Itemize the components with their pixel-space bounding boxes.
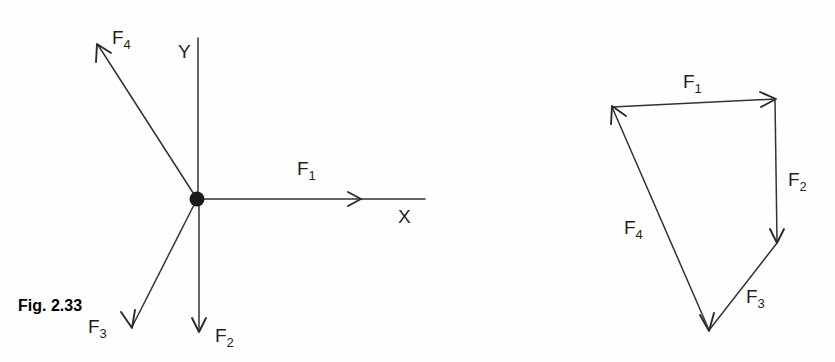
x-axis-label: X: [398, 206, 411, 227]
space-f2-label-base: F: [215, 325, 227, 346]
space-f2-label-sub: 2: [227, 335, 234, 350]
poly-f4-label-base: F: [624, 217, 636, 238]
space-f2-label: F2: [215, 325, 234, 350]
poly-f1-label: F1: [683, 71, 702, 96]
f4-shaft: [98, 45, 197, 199]
f3-arrowhead: [121, 310, 135, 328]
poly-f3-label-base: F: [746, 286, 758, 307]
poly-f2-shaft: [775, 99, 777, 241]
poly-f3-label: F3: [746, 286, 765, 311]
poly-f1-shaft: [612, 99, 775, 107]
poly-f3-label-sub: 3: [758, 296, 765, 311]
space-f3-label: F3: [88, 316, 107, 341]
space-f1-label-sub: 1: [309, 168, 316, 183]
poly-f4-label: F4: [624, 217, 643, 242]
origin-dot: [190, 192, 205, 207]
space-f4-label-base: F: [112, 27, 124, 48]
space-f3-label-base: F: [88, 316, 100, 337]
space-f4-label: F4: [112, 27, 131, 52]
space-f1-label: F1: [297, 158, 316, 183]
y-axis-label: Y: [178, 41, 191, 62]
poly-f1-label-base: F: [683, 71, 695, 92]
poly-f3-shaft: [710, 243, 777, 329]
poly-f2-label: F2: [788, 169, 807, 194]
space-diagram: Y X F1 F2 F3 F4 Fig. 2.33: [18, 27, 425, 350]
figure-caption: Fig. 2.33: [18, 297, 82, 314]
poly-f2-label-base: F: [788, 169, 800, 190]
poly-f2-label-sub: 2: [800, 179, 807, 194]
space-f1-label-base: F: [297, 158, 309, 179]
force-polygon: F1 F2 F3 F4: [611, 71, 807, 331]
f3-shaft: [132, 199, 197, 327]
poly-f4-label-sub: 4: [636, 227, 643, 242]
space-f3-label-sub: 3: [100, 326, 107, 341]
figure-canvas: Y X F1 F2 F3 F4 Fig. 2.33: [0, 0, 835, 362]
space-f4-label-sub: 4: [124, 37, 131, 52]
poly-f1-label-sub: 1: [695, 81, 702, 96]
figure-page: Y X F1 F2 F3 F4 Fig. 2.33: [0, 0, 835, 362]
